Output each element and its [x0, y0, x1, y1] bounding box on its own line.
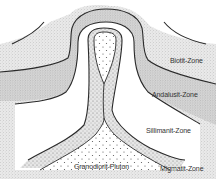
label-biotit-zone: Biotit-Zone — [170, 57, 203, 64]
label-sillimanit-zone: Sillimanit-Zone — [146, 127, 191, 134]
label-migmatit-zone: Migmatit-Zone — [160, 165, 203, 172]
metamorphic-zones-diagram — [0, 0, 216, 179]
label-andalusit-zone: Andalusit-Zone — [152, 91, 198, 98]
label-granodiorit-pluton: Granodiorit-Pluton — [74, 163, 129, 170]
